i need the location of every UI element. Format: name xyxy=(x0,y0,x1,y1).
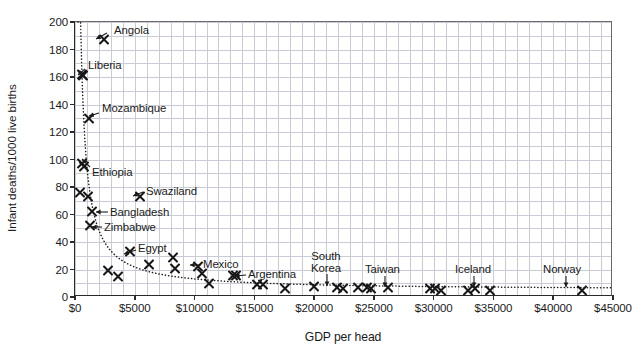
annotation-taiwan: Taiwan xyxy=(365,264,400,276)
y-axis-tick-label: 0 xyxy=(62,291,68,303)
annotation-text: Ethiopia xyxy=(92,167,132,179)
x-axis-tick-mark xyxy=(254,295,256,300)
y-axis-tick-mark xyxy=(70,241,75,243)
x-axis-tick-mark xyxy=(313,295,315,300)
x-axis-tick-mark xyxy=(493,295,495,300)
y-axis-tick-mark xyxy=(70,49,75,51)
x-axis-tick-label: $30000 xyxy=(415,302,453,314)
y-axis-tick-label: 100 xyxy=(49,154,68,166)
annotation-zimbabwe: Zimbabwe xyxy=(104,222,156,234)
x-axis-tick-mark xyxy=(433,295,435,300)
y-axis-tick-mark xyxy=(70,76,75,78)
x-axis-tick-label: $0 xyxy=(69,302,82,314)
annotation-text: Egypt xyxy=(138,243,167,255)
annotation-text: Angola xyxy=(114,25,149,37)
annotation-text: Swaziland xyxy=(146,186,197,198)
y-axis-tick-label: 180 xyxy=(49,44,68,56)
y-axis-tick-mark xyxy=(70,186,75,188)
plot-area: 020406080100120140160180200$0$5000$10000… xyxy=(74,21,612,296)
annotation-ethiopia: Ethiopia xyxy=(92,167,132,179)
y-axis-tick-label: 40 xyxy=(55,236,68,248)
annotation-text: Mozambique xyxy=(102,103,166,115)
y-axis-tick-mark xyxy=(70,159,75,161)
x-axis-tick-mark xyxy=(373,295,375,300)
annotation-angola: Angola xyxy=(114,25,149,37)
y-axis-tick-label: 60 xyxy=(55,209,68,221)
annotation-swaziland: Swaziland xyxy=(146,186,197,198)
x-axis-tick-label: $25000 xyxy=(355,302,393,314)
annotation-text: Korea xyxy=(311,263,341,275)
annotation-text: Iceland xyxy=(455,264,491,276)
annotation-mozambique: Mozambique xyxy=(102,103,166,115)
y-axis-tick-label: 140 xyxy=(49,99,68,111)
y-axis-title: Infant deaths/1000 live births xyxy=(4,22,20,294)
annotation-text: Taiwan xyxy=(365,264,400,276)
annotation-text: Liberia xyxy=(88,60,122,72)
x-axis-tick-label: $10000 xyxy=(176,302,214,314)
trendline xyxy=(75,22,613,297)
y-axis-tick-label: 200 xyxy=(49,16,68,28)
x-axis-tick-label: $20000 xyxy=(295,302,333,314)
x-axis-tick-mark xyxy=(74,295,76,300)
y-axis-tick-label: 20 xyxy=(55,264,68,276)
y-axis-tick-mark xyxy=(70,104,75,106)
x-axis-tick-label: $15000 xyxy=(235,302,273,314)
annotation-norway: Norway xyxy=(543,264,581,276)
annotation-text: Mexico xyxy=(203,259,238,271)
x-axis-tick-mark xyxy=(552,295,554,300)
y-axis-tick-mark xyxy=(70,131,75,133)
y-axis-tick-label: 80 xyxy=(55,181,68,193)
annotation-iceland: Iceland xyxy=(455,264,491,276)
x-axis-tick-label: $35000 xyxy=(475,302,513,314)
x-axis-title: GDP per head xyxy=(74,330,612,344)
y-axis-tick-mark xyxy=(70,214,75,216)
x-axis-tick-mark xyxy=(134,295,136,300)
x-axis-tick-mark xyxy=(194,295,196,300)
y-axis-tick-label: 160 xyxy=(49,71,68,83)
annotation-text: Bangladesh xyxy=(110,207,169,219)
y-axis-tick-label: 120 xyxy=(49,126,68,138)
y-axis-tick-mark xyxy=(70,269,75,271)
annotation-mexico: Mexico xyxy=(203,259,238,271)
annotation-egypt: Egypt xyxy=(138,243,167,255)
x-axis-tick-mark xyxy=(612,295,614,300)
x-axis-tick-label: $45000 xyxy=(594,302,632,314)
y-axis-tick-mark xyxy=(70,21,75,23)
annotation-argentina: Argentina xyxy=(248,269,296,281)
x-axis-tick-label: $40000 xyxy=(534,302,572,314)
annotation-text: Norway xyxy=(543,264,581,276)
x-axis-tick-label: $5000 xyxy=(119,302,150,314)
annotation-bangladesh: Bangladesh xyxy=(110,207,169,219)
annotation-text: Zimbabwe xyxy=(104,222,156,234)
annotation-text: South xyxy=(311,251,341,263)
scatter-plot-figure: Infant deaths/1000 live births 020406080… xyxy=(0,0,644,357)
annotation-southkorea: SouthKorea xyxy=(311,251,341,274)
annotation-liberia: Liberia xyxy=(88,60,122,72)
annotation-text: Argentina xyxy=(248,269,296,281)
